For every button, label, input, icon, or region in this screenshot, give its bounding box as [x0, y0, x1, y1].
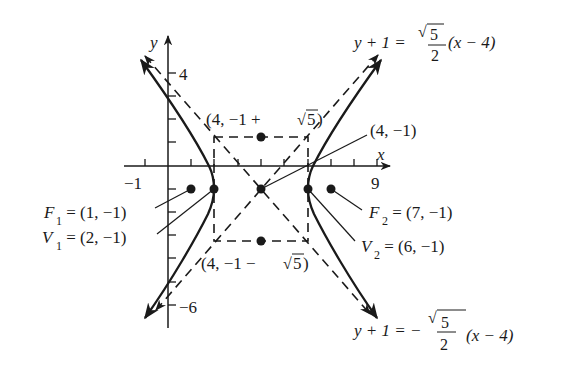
- y-tick-label-neg6: −6: [179, 298, 197, 317]
- x-tick-label-neg1: −1: [124, 174, 142, 193]
- focus-2-label: F 2 = (7, −1): [368, 203, 453, 228]
- sqrt-symbol: √: [428, 309, 437, 326]
- svg-text:√: √: [283, 255, 292, 272]
- conjugate-top-label: (4, −1 + √ 5 ): [206, 110, 323, 129]
- x-axis-label: x: [376, 145, 385, 164]
- svg-text:= (1, −1): = (1, −1): [62, 203, 127, 222]
- svg-text:= (2, −1): = (2, −1): [62, 228, 127, 247]
- svg-text:): ): [317, 110, 323, 129]
- sqrt-symbol: √: [418, 23, 427, 40]
- asymptote-negative-slope: [145, 56, 370, 314]
- svg-text:F: F: [368, 203, 380, 222]
- y-axis-label: y: [148, 33, 158, 52]
- conjugate-top-point: [257, 133, 266, 142]
- svg-text:5: 5: [307, 110, 316, 129]
- asymptote-positive-slope: [156, 55, 378, 310]
- svg-text:√: √: [297, 111, 306, 128]
- asymptotes: [145, 55, 378, 314]
- svg-text:V: V: [42, 228, 55, 247]
- svg-text:(x − 4): (x − 4): [466, 326, 514, 345]
- center-label: (4, −1): [370, 121, 416, 140]
- svg-text:5: 5: [293, 254, 302, 273]
- conjugate-bottom-point: [257, 237, 266, 246]
- svg-text:= (7, −1): = (7, −1): [388, 203, 453, 222]
- asymptote-positive-label: y + 1 = √ 5 2 (x − 4): [352, 23, 496, 64]
- svg-text:(4, −1 −: (4, −1 −: [201, 254, 256, 273]
- svg-text:(x − 4): (x − 4): [448, 33, 496, 52]
- y-tick-label-4: 4: [179, 65, 188, 84]
- svg-text:5: 5: [430, 26, 438, 43]
- x-ticks: [145, 159, 377, 166]
- vertex-1-label: V 1 = (2, −1): [42, 228, 127, 253]
- hyperbola-figure: x y −1 9 4 −6 y + 1 = √ 5 2: [0, 0, 562, 373]
- svg-text:(4, −1 +: (4, −1 +: [206, 110, 265, 129]
- svg-text:2: 2: [431, 47, 439, 64]
- svg-text:y + 1 =: y + 1 =: [352, 33, 406, 52]
- x-tick-label-9: 9: [371, 174, 380, 193]
- svg-text:V: V: [361, 237, 374, 256]
- focus-1-label: F 1 = (1, −1): [43, 203, 127, 228]
- svg-text:5: 5: [441, 314, 449, 331]
- svg-text:): ): [303, 254, 309, 273]
- hyperbola-left-branch: [141, 60, 214, 318]
- conjugate-bottom-label: (4, −1 − √ 5 ): [201, 254, 309, 273]
- axes: [124, 36, 390, 328]
- svg-text:y + 1 = −: y + 1 = −: [352, 321, 421, 340]
- svg-text:F: F: [43, 203, 55, 222]
- vertex-2-label: V 2 = (6, −1): [361, 237, 445, 262]
- svg-text:= (6, −1): = (6, −1): [380, 237, 445, 256]
- svg-text:2: 2: [440, 336, 448, 353]
